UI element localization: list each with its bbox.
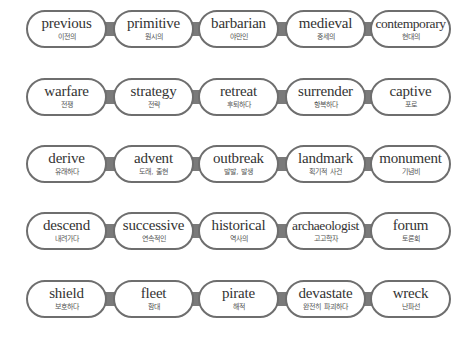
english-word: derive bbox=[48, 151, 84, 166]
word-card: surrender항복하다 bbox=[285, 78, 366, 116]
korean-meaning: 고고학자 bbox=[314, 235, 338, 244]
english-word: contemporary bbox=[375, 16, 445, 31]
english-word: historical bbox=[212, 218, 266, 233]
korean-meaning: 난파선 bbox=[402, 303, 420, 312]
english-word: retreat bbox=[220, 84, 257, 99]
english-word: landmark bbox=[298, 151, 353, 166]
english-word: devastate bbox=[298, 286, 352, 301]
word-card: captive포로 bbox=[370, 78, 451, 116]
english-word: pirate bbox=[222, 286, 255, 301]
word-card: strategy전략 bbox=[113, 78, 194, 116]
korean-meaning: 현대의 bbox=[402, 33, 420, 42]
korean-meaning: 항복하다 bbox=[314, 101, 338, 110]
korean-meaning: 기념비 bbox=[402, 168, 420, 177]
korean-meaning: 중세의 bbox=[317, 33, 335, 42]
word-card: wreck난파선 bbox=[370, 280, 451, 318]
korean-meaning: 유래하다 bbox=[55, 168, 79, 177]
english-word: archaeologist bbox=[292, 218, 359, 233]
korean-meaning: 도래, 출현 bbox=[139, 168, 167, 177]
word-card: fleet함대 bbox=[113, 280, 194, 318]
english-word: advent bbox=[134, 151, 173, 166]
korean-meaning: 보호하다 bbox=[55, 303, 79, 312]
word-card: forum토론회 bbox=[370, 212, 451, 250]
korean-meaning: 획기적 사건 bbox=[309, 168, 341, 177]
word-chain-row: derive유래하다advent도래, 출현outbreak발발, 발생land… bbox=[26, 145, 448, 183]
word-card: landmark획기적 사건 bbox=[285, 145, 366, 183]
word-card: barbarian야만인 bbox=[198, 10, 279, 48]
korean-meaning: 후퇴하다 bbox=[227, 101, 251, 110]
korean-meaning: 토론회 bbox=[402, 235, 420, 244]
english-word: barbarian bbox=[211, 16, 266, 31]
word-chain-row: previous이전의primitive원시의barbarian야만인medie… bbox=[26, 10, 448, 48]
word-card: descend내려가다 bbox=[26, 212, 107, 250]
english-word: strategy bbox=[131, 84, 177, 99]
word-card: primitive원시의 bbox=[113, 10, 194, 48]
english-word: descend bbox=[43, 218, 90, 233]
korean-meaning: 함대 bbox=[148, 303, 160, 312]
word-card: contemporary현대의 bbox=[370, 10, 451, 48]
word-chain-row: shield보호하다fleet함대pirate해적devastate완전히 파괴… bbox=[26, 280, 448, 318]
english-word: monument bbox=[379, 151, 442, 166]
english-word: outbreak bbox=[213, 151, 264, 166]
word-card: monument기념비 bbox=[370, 145, 451, 183]
english-word: successive bbox=[123, 218, 184, 233]
word-card: retreat후퇴하다 bbox=[198, 78, 279, 116]
word-card: devastate완전히 파괴하다 bbox=[285, 280, 366, 318]
english-word: surrender bbox=[298, 84, 353, 99]
korean-meaning: 야만인 bbox=[230, 33, 248, 42]
korean-meaning: 이전의 bbox=[58, 33, 76, 42]
korean-meaning: 전략 bbox=[148, 101, 160, 110]
english-word: primitive bbox=[127, 16, 180, 31]
word-card: successive연속적인 bbox=[113, 212, 194, 250]
english-word: wreck bbox=[393, 286, 429, 301]
english-word: captive bbox=[390, 84, 432, 99]
korean-meaning: 발발, 발생 bbox=[224, 168, 252, 177]
word-card: shield보호하다 bbox=[26, 280, 107, 318]
korean-meaning: 원시의 bbox=[145, 33, 163, 42]
korean-meaning: 해적 bbox=[233, 303, 245, 312]
korean-meaning: 연속적인 bbox=[142, 235, 166, 244]
korean-meaning: 완전히 파괴하다 bbox=[303, 303, 347, 312]
word-card: medieval중세의 bbox=[285, 10, 366, 48]
word-chain-row: descend내려가다successive연속적인historical역사의ar… bbox=[26, 212, 448, 250]
english-word: previous bbox=[41, 16, 91, 31]
word-card: derive유래하다 bbox=[26, 145, 107, 183]
english-word: forum bbox=[393, 218, 429, 233]
english-word: medieval bbox=[299, 16, 352, 31]
english-word: warfare bbox=[44, 84, 88, 99]
word-card: pirate해적 bbox=[198, 280, 279, 318]
korean-meaning: 포로 bbox=[405, 101, 417, 110]
korean-meaning: 전쟁 bbox=[61, 101, 73, 110]
korean-meaning: 내려가다 bbox=[55, 235, 79, 244]
english-word: fleet bbox=[141, 286, 167, 301]
word-card: advent도래, 출현 bbox=[113, 145, 194, 183]
word-card: warfare전쟁 bbox=[26, 78, 107, 116]
english-word: shield bbox=[49, 286, 84, 301]
korean-meaning: 역사의 bbox=[230, 235, 248, 244]
word-card: archaeologist고고학자 bbox=[285, 212, 366, 250]
word-chain-row: warfare전쟁strategy전략retreat후퇴하다surrender항… bbox=[26, 78, 448, 116]
word-card: outbreak발발, 발생 bbox=[198, 145, 279, 183]
word-card: historical역사의 bbox=[198, 212, 279, 250]
word-card: previous이전의 bbox=[26, 10, 107, 48]
